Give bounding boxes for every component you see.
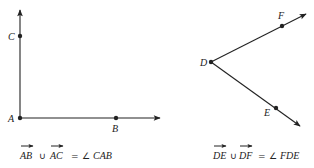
label-e: E (263, 107, 270, 118)
label-b: B (112, 123, 118, 134)
point-f (280, 24, 284, 28)
equals-sign: = (258, 151, 266, 161)
eq-angle-cab: CAB (93, 150, 112, 161)
union-symbol: ∪ (230, 151, 237, 161)
equation-left: AB ∪ AC = ∠ CAB (19, 146, 112, 161)
point-e (274, 106, 278, 110)
point-b (114, 116, 118, 120)
eq-angle-fde: FDE (279, 150, 299, 161)
point-d (209, 60, 213, 64)
equation-right: DE ∪ DF = ∠ FDE (212, 146, 299, 161)
ray-de (211, 62, 300, 126)
angle-symbol: ∠ (82, 151, 90, 161)
point-c (18, 34, 22, 38)
eq-ray-df: DF (238, 150, 253, 161)
union-symbol: ∪ (39, 151, 46, 161)
figure-angle-fde: D E F (199, 10, 306, 126)
ray-df (211, 14, 306, 62)
equals-sign: = (71, 151, 79, 161)
geometry-diagram: A B C D E F AB ∪ AC = ∠ CAB DE ∪ DF = ∠ … (0, 0, 314, 168)
eq-ray-de: DE (212, 150, 226, 161)
label-a: A (7, 113, 15, 124)
eq-ray-ac: AC (49, 150, 63, 161)
label-d: D (199, 57, 208, 68)
figure-angle-cab: A B C (7, 10, 160, 134)
label-f: F (277, 10, 285, 21)
label-c: C (8, 31, 15, 42)
eq-ray-ab: AB (19, 150, 32, 161)
point-a (18, 116, 22, 120)
angle-symbol: ∠ (269, 151, 277, 161)
